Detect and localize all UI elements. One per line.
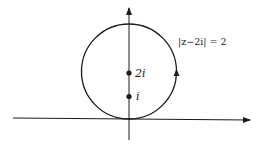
label-2i: 2i (134, 67, 146, 80)
point-i (126, 94, 131, 99)
orientation-arrow-icon (174, 69, 180, 76)
label-i: i (136, 90, 140, 103)
complex-plane-diagram: 2i i |z−2i| = 2 (0, 0, 263, 151)
equation-label: |z−2i| = 2 (178, 36, 227, 48)
point-2i (126, 70, 131, 75)
